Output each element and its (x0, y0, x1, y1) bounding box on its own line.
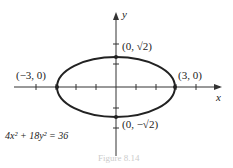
vertex-point (114, 55, 118, 59)
point-label-right: (3, 0) (178, 70, 202, 81)
point-label-top: (0, √2) (122, 41, 152, 52)
ellipse-diagram (0, 0, 233, 168)
figure-caption: Figure 8.14 (98, 153, 140, 163)
x-axis-label: x (216, 92, 221, 103)
y-axis-arrow-icon (113, 12, 119, 20)
vertex-point (114, 115, 118, 119)
vertex-point (173, 85, 177, 89)
point-label-left: (−3, 0) (16, 70, 46, 81)
equation-label: 4x² + 18y² = 36 (5, 131, 68, 141)
point-label-bottom: (0, −√2) (122, 119, 158, 130)
y-axis-label: y (122, 9, 127, 20)
vertex-point (55, 85, 59, 89)
x-axis-arrow-icon (214, 84, 222, 90)
